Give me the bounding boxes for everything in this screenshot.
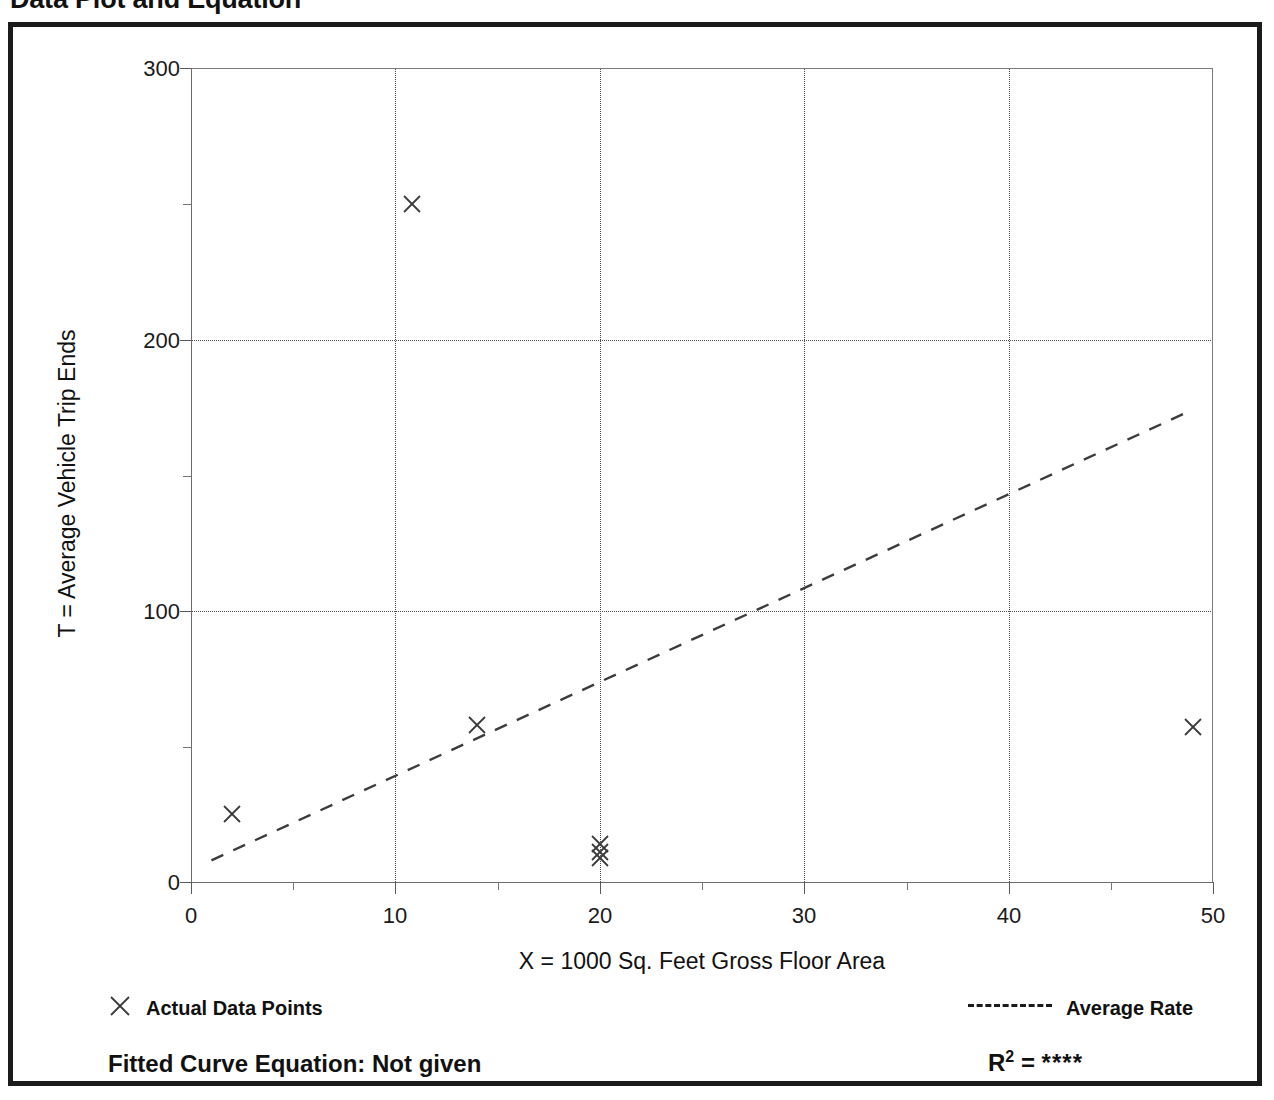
x-tick-label-50: 50 xyxy=(1201,903,1225,929)
y-tick-150 xyxy=(183,476,191,477)
r-squared-symbol: R xyxy=(988,1049,1005,1076)
plot-area-border xyxy=(191,68,1213,882)
chart-plot: 300 200 100 0 0 10 20 30 40 50 X = 1000 … xyxy=(0,0,1274,1100)
x-tick-label-0: 0 xyxy=(185,903,197,929)
x-tick-0 xyxy=(191,882,192,894)
y-tick-label-300: 300 xyxy=(143,56,180,82)
legend-label-actual-data-points: Actual Data Points xyxy=(146,997,323,1020)
r-squared-block: R2 = **** xyxy=(988,1048,1083,1077)
r-squared-equals: = xyxy=(1014,1049,1041,1076)
x-tick-35 xyxy=(907,882,908,890)
y-axis-line xyxy=(191,68,192,884)
y-tick-label-100: 100 xyxy=(143,599,180,625)
y-tick-50 xyxy=(183,747,191,748)
x-tick-20 xyxy=(600,882,601,894)
x-tick-label-20: 20 xyxy=(588,903,612,929)
r-squared-value: **** xyxy=(1042,1049,1083,1076)
x-tick-label-10: 10 xyxy=(383,903,407,929)
y-tick-200 xyxy=(180,340,191,341)
x-tick-40 xyxy=(1009,882,1010,894)
x-tick-10 xyxy=(395,882,396,894)
y-tick-label-200: 200 xyxy=(143,328,180,354)
fitted-curve-equation: Fitted Curve Equation: Not given xyxy=(108,1050,481,1078)
x-tick-label-40: 40 xyxy=(997,903,1021,929)
x-tick-45 xyxy=(1111,882,1112,890)
y-axis-title: T = Average Vehicle Trip Ends xyxy=(54,164,81,804)
y-tick-250 xyxy=(183,204,191,205)
x-tick-25 xyxy=(702,882,703,890)
y-tick-300 xyxy=(180,68,191,69)
x-tick-15 xyxy=(498,882,499,890)
y-tick-0 xyxy=(180,882,191,883)
y-tick-100 xyxy=(180,611,191,612)
data-point-marker xyxy=(1182,716,1204,738)
x-tick-5 xyxy=(293,882,294,890)
y-tick-label-0: 0 xyxy=(168,870,180,896)
data-point-marker xyxy=(401,193,423,215)
x-tick-30 xyxy=(804,882,805,894)
r-squared-exponent: 2 xyxy=(1005,1048,1014,1065)
legend-label-average-rate: Average Rate xyxy=(1066,997,1193,1020)
data-point-marker xyxy=(589,841,611,863)
dashed-line-icon xyxy=(968,1004,1052,1007)
x-tick-50 xyxy=(1213,882,1214,894)
data-point-marker xyxy=(466,714,488,736)
x-axis-title: X = 1000 Sq. Feet Gross Floor Area xyxy=(191,948,1213,975)
data-point-marker xyxy=(221,803,243,825)
x-tick-label-30: 30 xyxy=(792,903,816,929)
x-marker-icon xyxy=(108,994,132,1018)
